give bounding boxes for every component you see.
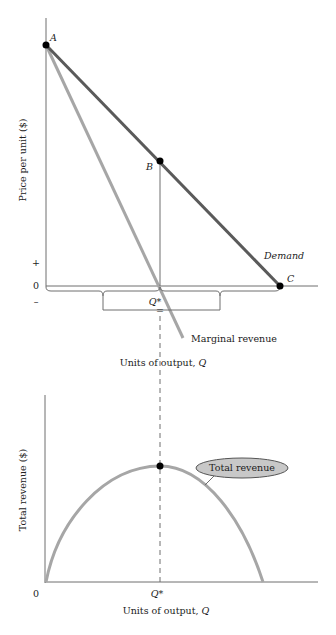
bottom-panel: Total revenue ($) Total revenue 0 Q* Uni… [17,395,318,616]
point-c-marker [277,283,284,290]
tr-callout-leader [205,476,214,485]
marginal-revenue-label: Marginal revenue [191,333,277,344]
sign-zero: 0 [33,280,39,291]
elastic-brace [46,287,160,296]
quantity-axis-label-top: Units of output, Q [120,357,207,368]
point-b-marker [157,158,164,165]
total-revenue-axis-label: Total revenue ($) [17,449,28,531]
origin-label: 0 [33,588,39,599]
price-axis-label: Price per unit ($) [17,119,28,202]
equals-label: = [156,305,164,316]
total-revenue-curve [46,466,263,582]
demand-line [46,45,280,286]
inelastic-brace [160,287,280,296]
sign-minus: – [34,296,39,307]
revenue-diagram: Price per unit ($) + 0 – A B C Demand Q*… [0,0,336,635]
top-panel: Price per unit ($) + 0 – A B C Demand Q*… [17,18,318,368]
quantity-axis-label-bottom: Units of output, Q [123,605,210,616]
sign-plus: + [32,257,40,268]
point-a-label: A [49,32,57,43]
point-c-label: C [287,273,295,284]
tr-peak-marker [157,463,164,470]
demand-label: Demand [263,250,304,261]
point-a-marker [43,42,50,49]
tr-callout-label: Total revenue [209,462,275,473]
qstar-label-bottom: Q* [151,588,164,599]
point-b-label: B [145,161,153,172]
marginal-revenue-line [46,45,183,338]
